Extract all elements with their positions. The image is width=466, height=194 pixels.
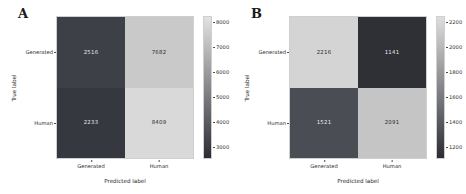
y-tick-label: Generated bbox=[258, 49, 286, 55]
matrix-cell: 7682 bbox=[125, 17, 193, 88]
cell-value: 1521 bbox=[317, 120, 332, 125]
y-tick-label: Human bbox=[34, 120, 53, 126]
cell-value: 1141 bbox=[385, 50, 400, 55]
panel-a-y-axis-label: True label bbox=[11, 74, 17, 101]
y-tick-label: Generated bbox=[25, 49, 53, 55]
cell-value: 7682 bbox=[152, 50, 167, 55]
panel-a: A 2516 Generated 7682 2233 Human Generat… bbox=[0, 0, 233, 194]
panel-b: B 2216 Generated 1141 1521 Human Generat… bbox=[233, 0, 466, 194]
panel-a-matrix: 2516 Generated 7682 2233 Human Generated… bbox=[56, 16, 194, 159]
panel-b-colorbar bbox=[436, 16, 445, 159]
colorbar-tick-label: 7000 bbox=[216, 44, 229, 50]
panel-b-letter: B bbox=[251, 6, 262, 21]
colorbar-tick-label: 8000 bbox=[216, 19, 229, 25]
colorbar-tick-label: 2200 bbox=[449, 19, 462, 25]
colorbar-tick-label: 1600 bbox=[449, 94, 462, 100]
cell-value: 2216 bbox=[317, 50, 332, 55]
colorbar-tick-label: 6000 bbox=[216, 69, 229, 75]
colorbar-tick-label: 1200 bbox=[449, 144, 462, 150]
colorbar-tick-label: 1400 bbox=[449, 119, 462, 125]
x-tick-label: Generated bbox=[77, 163, 105, 169]
panel-b-matrix: 2216 Generated 1141 1521 Human Generated… bbox=[289, 16, 427, 159]
colorbar-tick-label: 5000 bbox=[216, 94, 229, 100]
panel-b-colorbar-ticks: 2200 2000 1800 1600 1400 1200 bbox=[446, 16, 466, 159]
matrix-cell: 2516 Generated bbox=[57, 17, 125, 88]
matrix-cell: 2091 Human bbox=[358, 88, 426, 159]
x-tick-label: Human bbox=[383, 163, 402, 169]
matrix-cell: 2216 Generated bbox=[290, 17, 358, 88]
x-tick-label: Human bbox=[150, 163, 169, 169]
y-tick-label: Human bbox=[267, 120, 286, 126]
panel-a-letter: A bbox=[18, 6, 28, 21]
panel-a-colorbar bbox=[203, 16, 212, 159]
colorbar-tick-label: 4000 bbox=[216, 119, 229, 125]
colorbar-tick-label: 3000 bbox=[216, 144, 229, 150]
matrix-cell: 1521 Human Generated bbox=[290, 88, 358, 159]
matrix-cell: 8409 Human bbox=[125, 88, 193, 159]
matrix-cell: 1141 bbox=[358, 17, 426, 88]
x-tick-label: Generated bbox=[310, 163, 338, 169]
panel-b-x-axis-label: Predicted label bbox=[289, 178, 427, 184]
cell-value: 2091 bbox=[385, 120, 400, 125]
panel-b-y-axis-label: True label bbox=[244, 74, 250, 101]
cell-value: 8409 bbox=[152, 120, 167, 125]
confusion-matrix-figure: A 2516 Generated 7682 2233 Human Generat… bbox=[0, 0, 466, 194]
panel-a-x-axis-label: Predicted label bbox=[56, 178, 194, 184]
matrix-cell: 2233 Human Generated bbox=[57, 88, 125, 159]
cell-value: 2516 bbox=[84, 50, 99, 55]
cell-value: 2233 bbox=[84, 120, 99, 125]
colorbar-tick-label: 2000 bbox=[449, 44, 462, 50]
colorbar-tick-label: 1800 bbox=[449, 69, 462, 75]
